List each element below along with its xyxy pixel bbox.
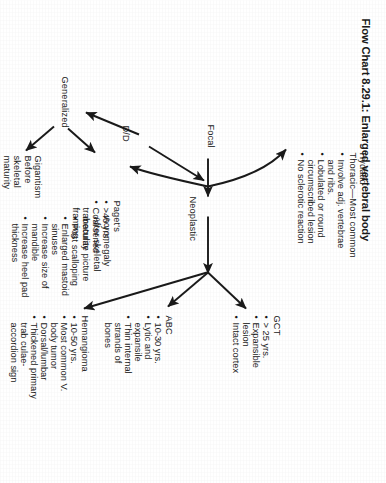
list-item: > 25 yrs. bbox=[261, 315, 271, 387]
list-item: Intact cortex bbox=[231, 315, 241, 387]
node-focal: Focal bbox=[206, 124, 216, 147]
node-hydatid-label: Hydatid bbox=[358, 152, 368, 272]
list-item: Enlarged mastoid sinuses bbox=[50, 216, 70, 300]
list-item: 10-30 yrs. bbox=[153, 315, 163, 389]
list-item: Dorsal/lumbar bbox=[39, 315, 49, 401]
list-item: Thickened primary trab culae- accordion … bbox=[9, 315, 39, 401]
list-item: >40 yrs. bbox=[101, 200, 111, 288]
group-gigantism: Gigantism Before skeletal maturity bbox=[1, 155, 43, 217]
node-gct-label: GCT bbox=[272, 315, 282, 391]
node-gigantism-subtitle: Before skeletal maturity bbox=[1, 155, 32, 207]
list-item: Increase heel pad thickness bbox=[10, 216, 30, 300]
node-hydatid-subtitle: Thoracic—Most common bbox=[347, 152, 357, 272]
flowchart-canvas: Flow Chart 8.29.1: Enlarged vertebral bo… bbox=[0, 0, 386, 483]
list-item: Most common V. body tumor bbox=[49, 315, 69, 401]
list-pagets-bullets: >40 yrs. Coarsened trabeculae picture fr… bbox=[71, 200, 111, 288]
node-pagets-label: Paget's bbox=[112, 200, 122, 292]
list-item: Expansible lesion bbox=[241, 315, 261, 387]
list-item: Lobulated or round circumscribed lesion bbox=[306, 152, 326, 264]
group-hydatid: Hydatid Thoracic—Most common Involve adj… bbox=[296, 152, 368, 272]
list-item: Increase size of mandible bbox=[30, 216, 50, 300]
list-item: 10-50 yrs. bbox=[69, 315, 79, 401]
figure-page: Flow Chart 8.29.1: Enlarged vertebral bo… bbox=[0, 0, 386, 483]
list-item: Coarsened trabeculae picture framing bbox=[71, 200, 101, 288]
node-neoplastic: Neoplastic bbox=[188, 196, 198, 240]
list-abc-bullets: 10-30 yrs. Lytic and expansile Thin inte… bbox=[103, 315, 163, 389]
list-hydatid-bullets: Involve adj. vertebrae and ribs. Lobulat… bbox=[296, 152, 346, 264]
list-item: Thin internal strands of bones bbox=[103, 315, 133, 389]
group-hemangioma: Hemangioma 10-50 yrs. Most common V. bod… bbox=[9, 315, 90, 405]
group-pagets: Paget's >40 yrs. Coarsened trabeculae pi… bbox=[71, 200, 122, 292]
node-abc-label: ABC bbox=[164, 315, 174, 393]
node-generalized: Generalized bbox=[60, 76, 70, 127]
group-gct: GCT > 25 yrs. Expansible lesion Intact c… bbox=[231, 315, 282, 391]
list-gct-bullets: > 25 yrs. Expansible lesion Intact corte… bbox=[231, 315, 271, 387]
node-hemangioma-label: Hemangioma bbox=[80, 315, 90, 405]
rotated-canvas: Flow Chart 8.29.1: Enlarged vertebral bo… bbox=[0, 0, 386, 483]
node-gigantism-label: Gigantism bbox=[33, 155, 43, 217]
group-abc: ABC 10-30 yrs. Lytic and expansile Thin … bbox=[103, 315, 174, 393]
list-hemangioma-bullets: 10-50 yrs. Most common V. body tumor Dor… bbox=[9, 315, 79, 401]
list-acromegaly-bullets: Post scalloping Enlarged mastoid sinuses… bbox=[10, 216, 80, 300]
list-item: Involve adj. vertebrae and ribs. bbox=[326, 152, 346, 264]
list-item: Lytic and expansile bbox=[133, 315, 153, 389]
list-item: No sclerotic reaction bbox=[296, 152, 306, 264]
node-root-dd: D/D bbox=[121, 125, 131, 141]
